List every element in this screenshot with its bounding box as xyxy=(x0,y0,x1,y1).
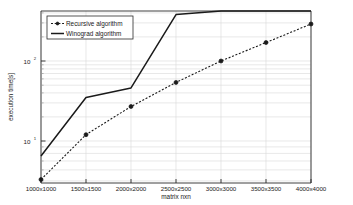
y-axis-title: execution time[s] xyxy=(7,73,15,121)
chart-legend: Recursive algorithm Winograd algorithm xyxy=(47,16,133,39)
x-tick-label-1500: 1500x1500 xyxy=(71,185,102,192)
legend-marker-recursive xyxy=(56,22,59,25)
y-tick-mantissa-100: 10 xyxy=(24,58,31,65)
legend-label-winograd: Winograd algorithm xyxy=(66,30,121,38)
data-point-marker xyxy=(219,59,223,63)
data-point-marker xyxy=(39,178,43,182)
data-point-marker xyxy=(309,22,313,26)
x-tick-label-1000: 1000x1000 xyxy=(26,185,57,192)
data-point-marker xyxy=(174,80,178,84)
x-tick-label-4000: 4000x4000 xyxy=(296,185,327,192)
data-point-marker xyxy=(84,133,88,137)
x-tick-label-2000: 2000x2000 xyxy=(116,185,147,192)
legend-label-recursive: Recursive algorithm xyxy=(66,20,122,28)
x-tick-label-2500: 2500x2500 xyxy=(161,185,192,192)
execution-time-log-plot: 10 2 10 1 execution time[s] 1000x1000 15… xyxy=(0,0,353,205)
chart-figure: 10 2 10 1 execution time[s] 1000x1000 15… xyxy=(0,0,353,205)
data-point-marker xyxy=(129,104,133,108)
data-point-marker xyxy=(264,41,268,45)
x-tick-label-3000: 3000x3000 xyxy=(206,185,237,192)
x-tick-label-3500: 3500x3500 xyxy=(251,185,282,192)
y-tick-mantissa-10: 10 xyxy=(24,138,31,145)
x-axis-title: matrix nxn xyxy=(161,193,191,200)
